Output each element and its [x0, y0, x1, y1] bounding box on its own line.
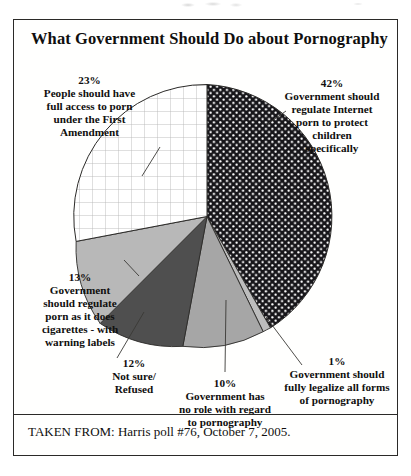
- pie-label-13: 13% Government should regulate porn as i…: [18, 271, 142, 349]
- pie-label-1: 1% Government should fully legalize all …: [276, 355, 398, 407]
- scan-artifact: [0, 0, 411, 14]
- pie-label-10: 10% Government has no role with regard t…: [164, 377, 286, 429]
- pie-label-23: 23% People should have full access to po…: [22, 74, 157, 139]
- pie-slice-10: [183, 217, 263, 348]
- source-note: TAKEN FROM: Harris poll #76, October 7, …: [28, 424, 291, 440]
- divider: [14, 414, 397, 415]
- pie-slice-1: [207, 217, 270, 332]
- chart-frame: What Government Should Do about Pornogra…: [13, 19, 398, 456]
- pie-label-42: 42% Government should regulate Internet …: [266, 77, 398, 155]
- leader-line-10: [225, 300, 226, 372]
- page-title: What Government Should Do about Pornogra…: [31, 29, 388, 49]
- leader-line-23: [142, 147, 160, 176]
